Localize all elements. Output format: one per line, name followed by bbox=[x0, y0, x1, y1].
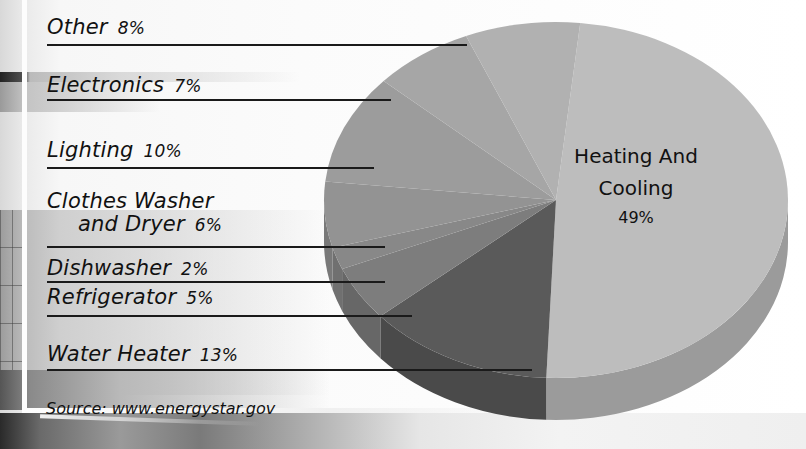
source-caption: Source: www.energystar.gov bbox=[46, 399, 275, 418]
legend-percent: 8% bbox=[118, 18, 145, 38]
legend-percent: 10% bbox=[143, 141, 181, 161]
legend-label-text: Refrigerator bbox=[47, 285, 176, 309]
legend-percent: 5% bbox=[186, 288, 213, 308]
legend-label-text: Lighting bbox=[47, 138, 133, 162]
leader-line-other bbox=[47, 44, 467, 46]
legend-percent: 7% bbox=[174, 76, 201, 96]
leader-line-dishwasher bbox=[47, 281, 385, 283]
legend-item-clothes-washer-dryer: Clothes Washer and Dryer6% bbox=[47, 190, 222, 237]
legend-label-text: Other bbox=[47, 15, 108, 39]
slice-label-line2: Cooling bbox=[536, 172, 736, 204]
legend-percent: 2% bbox=[181, 259, 208, 279]
legend-label-text: Water Heater bbox=[47, 342, 190, 366]
legend-label-text-line1: Clothes Washer bbox=[47, 189, 214, 213]
leader-line-clothes-washer-dryer bbox=[47, 246, 385, 248]
legend-percent: 6% bbox=[195, 215, 222, 235]
legend-label-text: Electronics bbox=[47, 73, 164, 97]
slice-label-line1: Heating And bbox=[536, 140, 736, 172]
legend-item-other: Other8% bbox=[47, 15, 145, 39]
legend-item-dishwasher: Dishwasher2% bbox=[47, 256, 208, 280]
legend-label-text-line2: and Dryer bbox=[78, 212, 185, 236]
legend-percent: 13% bbox=[200, 345, 238, 365]
slice-label-value: 49% bbox=[536, 206, 736, 230]
leader-line-lighting bbox=[47, 167, 374, 169]
legend-item-refrigerator: Refrigerator5% bbox=[47, 285, 214, 309]
legend-item-lighting: Lighting10% bbox=[47, 138, 182, 162]
slice-label-heating-cooling: Heating And Cooling 49% bbox=[536, 140, 736, 230]
leader-line-refrigerator bbox=[47, 315, 412, 317]
legend-item-water-heater: Water Heater13% bbox=[47, 342, 238, 366]
legend-item-electronics: Electronics7% bbox=[47, 73, 202, 97]
leader-line-electronics bbox=[47, 99, 391, 101]
legend-label-text: Dishwasher bbox=[47, 256, 171, 280]
leader-line-water-heater bbox=[47, 369, 532, 371]
